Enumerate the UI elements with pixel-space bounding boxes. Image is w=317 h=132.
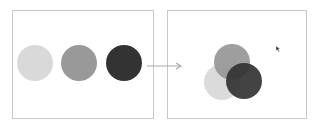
transform-arrow (147, 63, 181, 69)
left-medium-circle (61, 45, 97, 81)
right-dark-circle (226, 63, 262, 99)
left-dark-circle (106, 45, 142, 81)
left-circles (17, 45, 142, 81)
right-circles (204, 44, 262, 100)
left-light-circle (17, 45, 53, 81)
mouse-cursor-icon (276, 46, 280, 52)
diagram-canvas (0, 0, 317, 132)
